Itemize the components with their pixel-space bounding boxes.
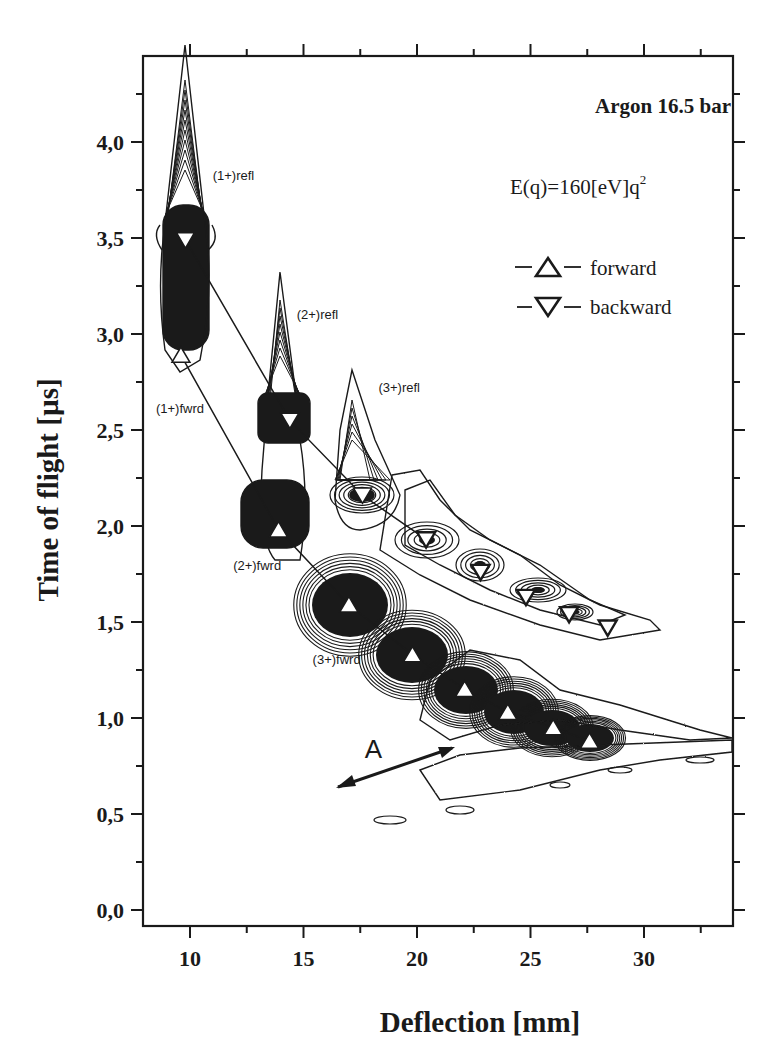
arrow-a <box>336 747 455 788</box>
legend: Argon 16.5 bar E(q)=160[eV]q2 forward ba… <box>510 94 731 319</box>
peak-label: (3+)fwrd <box>313 652 361 667</box>
backward-marker <box>599 621 617 636</box>
triangle-up-icon <box>536 258 560 276</box>
y-axis-title: Time of flight [µs] <box>32 378 64 601</box>
peak-label: (2+)refl <box>297 307 339 322</box>
legend-backward-label: backward <box>590 295 672 319</box>
y-tick-label: 1,5 <box>97 610 125 635</box>
formula-text: E(q)=160[eV]q <box>510 175 640 199</box>
legend-backward: backward <box>517 295 672 319</box>
y-tick-label: 1,0 <box>97 706 125 731</box>
y-tick-label: 2,0 <box>97 514 125 539</box>
legend-title: Argon 16.5 bar <box>595 94 731 118</box>
x-tick-label: 15 <box>293 946 315 971</box>
y-tick-label: 0,0 <box>97 898 125 923</box>
legend-formula: E(q)=160[eV]q2 <box>510 172 646 199</box>
peak-label: A <box>365 734 383 764</box>
y-tick-label: 3,0 <box>97 322 125 347</box>
triangle-down-icon <box>536 298 560 316</box>
contour-layer <box>156 45 732 824</box>
formula-superscript: 2 <box>640 172 647 187</box>
x-tick-label: 20 <box>406 946 428 971</box>
backward-marker <box>472 565 490 580</box>
peak-label: (2+)fwrd <box>233 558 281 573</box>
y-tick-label: 2,5 <box>97 418 125 443</box>
peak-label: (1+)refl <box>213 168 255 183</box>
y-tick-label: 4,0 <box>97 130 125 155</box>
x-tick-label: 30 <box>633 946 655 971</box>
legend-forward-label: forward <box>590 256 657 280</box>
peak-label: (3+)refl <box>378 380 420 395</box>
x-tick-label: 10 <box>179 946 201 971</box>
y-tick-label: 3,5 <box>97 226 125 251</box>
contour-chart: 10152025300,00,51,01,52,02,53,03,54,0 (1… <box>0 0 776 1059</box>
y-tick-label: 0,5 <box>97 802 125 827</box>
peak-label: (1+)fwrd <box>156 401 204 416</box>
backward-marker <box>517 590 535 605</box>
x-tick-label: 25 <box>520 946 542 971</box>
x-axis-title: Deflection [mm] <box>380 1006 581 1038</box>
legend-forward: forward <box>515 256 657 280</box>
